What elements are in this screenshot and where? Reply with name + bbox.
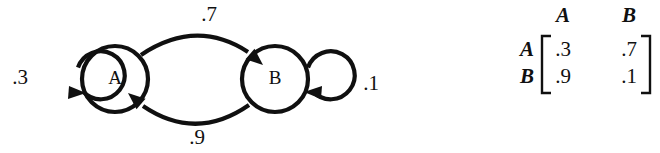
matrix-cell-0-0: .3 — [555, 37, 571, 61]
edge-b-to-a-arc — [143, 105, 249, 124]
figure-canvas: .3 .1 .7 .9 A B — [0, 0, 660, 153]
matrix-column-header-1: B — [621, 3, 636, 27]
edge-a-to-b — [141, 36, 268, 71]
matrix-cell-0-1: .7 — [621, 37, 637, 61]
matrix-row-label-1: B — [519, 64, 534, 88]
matrix-row-label-0: A — [518, 37, 534, 61]
matrix-cell-1-0: .9 — [555, 64, 571, 88]
self-loop-b — [304, 51, 355, 99]
transition-matrix: A B A B .3 .7 .9 .1 — [518, 3, 650, 93]
matrix-column-header-0: A — [554, 3, 570, 27]
matrix-cell-1-1: .1 — [621, 64, 637, 88]
edge-b-to-a-weight: .9 — [189, 125, 205, 149]
markov-chain-diagram: .3 .1 .7 .9 A B — [0, 0, 660, 153]
matrix-right-bracket — [641, 36, 650, 93]
edge-a-to-b-arc — [141, 36, 248, 55]
self-loop-a-weight: .3 — [12, 65, 28, 89]
self-loop-b-weight: .1 — [363, 71, 379, 95]
state-node-b-label: B — [269, 67, 282, 88]
state-node-a-label: A — [108, 67, 122, 88]
state-node-b[interactable]: B — [242, 46, 308, 112]
edge-a-to-b-weight: .7 — [201, 2, 217, 26]
matrix-left-bracket — [542, 36, 551, 93]
edge-b-to-a — [123, 88, 249, 124]
